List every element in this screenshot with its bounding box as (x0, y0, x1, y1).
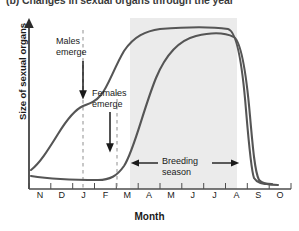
x-tick-label-sep: S (249, 190, 267, 200)
x-tick-label-oct: O (271, 190, 289, 200)
females-emerge-line1: Females (92, 88, 127, 99)
x-tick-label-aug: A (227, 190, 245, 200)
males-emerge-annotation: Males emerge (56, 36, 87, 57)
x-tick-label-mar: M (118, 190, 136, 200)
x-tick-label-jan: J (75, 190, 93, 200)
breeding-season-line1: Breeding (162, 156, 198, 167)
males-emerge-line2: emerge (56, 47, 87, 58)
x-tick-label-apr: A (140, 190, 158, 200)
males-emerge-line1: Males (56, 36, 87, 47)
x-axis-label: Month (0, 211, 299, 222)
x-tick-label-dec: D (53, 190, 71, 200)
x-tick-label-may: M (162, 190, 180, 200)
x-tick-label-nov: N (31, 190, 49, 200)
females-emerge-line2: emerge (92, 99, 127, 110)
breeding-season-annotation: Breeding season (162, 156, 198, 177)
x-tick-label-feb: F (96, 190, 114, 200)
females-emerge-annotation: Females emerge (92, 88, 127, 109)
x-tick-label-jun: J (184, 190, 202, 200)
x-axis-ticks (29, 183, 291, 189)
figure-container: (b) Changes in sexual organs through the… (0, 0, 299, 231)
breeding-season-line2: season (162, 167, 198, 178)
x-tick-label-jul: J (206, 190, 224, 200)
